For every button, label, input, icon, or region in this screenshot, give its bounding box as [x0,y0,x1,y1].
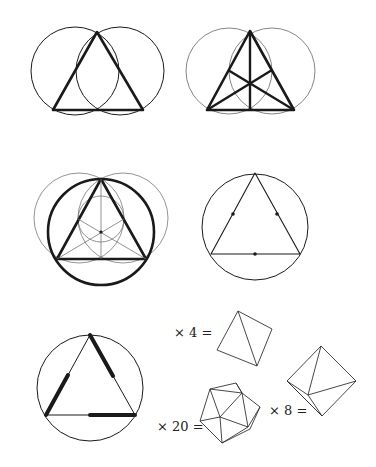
icosahedron-label: × 20 = [157,419,204,434]
icosahedron-outline [200,383,260,443]
figure: × 4 = × 20 = × 8 = [0,0,376,467]
icosahedron-edge [248,407,260,427]
octahedron-edge [308,395,322,416]
centroid-dot [99,230,102,233]
midpoint-dot-left [231,212,235,216]
icosahedron-edge [242,393,248,427]
icosahedron-edge [220,417,222,443]
tetrahedron-label: × 4 = [174,325,212,340]
panel-circumscribed-circle-construction [34,173,168,285]
panel-triangle-half-edges-bold [37,335,143,441]
icosahedron-edge [220,393,242,417]
octahedron-edge [308,346,321,395]
icosahedron-edge [220,417,248,427]
tetrahedron-outline [217,311,272,366]
icosahedron-edge [210,389,220,417]
equilateral-triangle [46,335,135,415]
circumscribed-circle [37,335,143,441]
figure-canvas: × 4 = × 20 = × 8 = [0,0,376,467]
circumscribed-circle [202,174,308,280]
equilateral-triangle [53,32,143,110]
bold-half-edge-right [90,335,113,376]
panel-two-circles-triangle [31,27,164,115]
solid-tetrahedron: × 4 = [174,311,272,366]
midpoint-dot-base [253,252,257,256]
octahedron-edge [287,381,308,395]
octahedron-label: × 8 = [269,403,307,418]
icosahedron-edge [222,427,248,443]
equilateral-triangle [211,173,300,254]
solid-icosahedron: × 20 = [157,383,260,443]
panel-triangle-with-medians [186,28,315,114]
icosahedron-edge [210,389,242,393]
midpoint-dot-right [275,212,279,216]
panel-triangle-in-circle-midpoints [202,173,308,280]
icosahedron-edge [236,383,242,393]
solid-octahedron: × 8 = [269,346,356,418]
bold-half-edge-left [46,375,68,415]
